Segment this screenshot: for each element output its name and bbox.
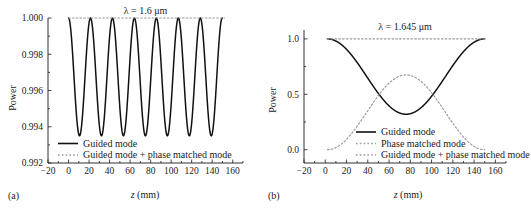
legend-label: Guided mode + phase matched mode — [381, 149, 530, 160]
chart-panel-a: −200204060801001201401600.9920.9940.9960… — [0, 0, 265, 215]
chart-a-series — [69, 18, 225, 136]
x-tick-label: 120 — [185, 166, 200, 176]
series-line — [327, 39, 484, 114]
chart-a-xaxis-title: z (mm) — [130, 189, 160, 201]
x-tick-label: 80 — [406, 166, 416, 176]
legend-label: Guided mode + phase matched mode — [83, 149, 232, 160]
chart-b-title: λ = 1.645 μm — [378, 21, 432, 32]
y-tick-label: 0.998 — [22, 50, 44, 60]
legend-label: Phase matched mode — [381, 138, 466, 149]
x-tick-label: −20 — [297, 166, 312, 176]
x-tick-label: 20 — [342, 166, 352, 176]
chart-a-svg: −200204060801001201401600.9920.9940.9960… — [0, 0, 265, 215]
legend-label: Guided mode — [381, 126, 436, 137]
x-tick-label: 100 — [424, 166, 439, 176]
y-tick-label: 1.000 — [22, 13, 44, 23]
x-tick-label: 0 — [66, 166, 71, 176]
x-tick-label: 60 — [125, 166, 135, 176]
panel-a-label: (a) — [8, 190, 19, 202]
x-tick-label: 160 — [488, 166, 503, 176]
x-tick-label: 140 — [205, 166, 220, 176]
chart-a-title: λ = 1.6 μm — [124, 5, 168, 16]
x-tick-label: 40 — [363, 166, 373, 176]
x-tick-label: 0 — [323, 166, 328, 176]
chart-panel-b: −200204060801001201401600.00.51.0 λ = 1.… — [266, 0, 531, 215]
y-tick-label: 0.996 — [22, 86, 44, 96]
y-tick-label: 0.994 — [22, 122, 44, 132]
figure-container: −200204060801001201401600.9920.9940.9960… — [0, 0, 531, 215]
y-tick-label: 0.5 — [287, 90, 299, 100]
x-tick-label: 140 — [467, 166, 482, 176]
chart-b-svg: −200204060801001201401600.00.51.0 λ = 1.… — [266, 0, 531, 215]
series-line — [69, 18, 223, 136]
y-tick-label: 0.0 — [287, 145, 299, 155]
chart-a-yaxis-title: Power — [7, 85, 18, 111]
x-tick-label: 80 — [146, 166, 156, 176]
panel-b-label: (b) — [268, 190, 280, 202]
y-tick-label: 1.0 — [287, 34, 299, 44]
x-tick-label: 60 — [384, 166, 394, 176]
chart-b-legend: Guided modePhase matched modeGuided mode… — [356, 126, 530, 160]
chart-b-xaxis-title: z (mm) — [393, 189, 423, 201]
x-tick-label: 40 — [105, 166, 115, 176]
x-tick-label: 20 — [84, 166, 94, 176]
y-tick-label: 0.992 — [22, 158, 44, 168]
chart-b-yaxis-title: Power — [267, 87, 278, 113]
x-tick-label: 120 — [446, 166, 461, 176]
legend-label: Guided mode — [83, 138, 138, 149]
x-tick-label: 100 — [164, 166, 179, 176]
x-tick-label: 160 — [226, 166, 241, 176]
chart-a-legend: Guided modeGuided mode + phase matched m… — [58, 138, 232, 161]
